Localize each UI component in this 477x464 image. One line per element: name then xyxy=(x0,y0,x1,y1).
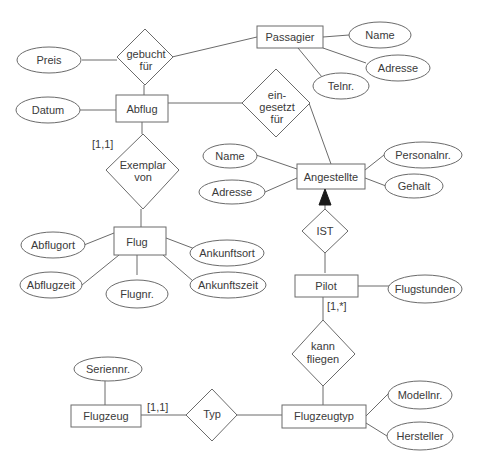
cardinality-abflug-exemplar: [1,1] xyxy=(92,138,113,150)
relationship-ist[interactable]: IST xyxy=(302,209,348,253)
attribute-ankunftszeit[interactable]: Ankunftszeit xyxy=(190,272,266,298)
cardinality-pilot-kann-fliegen: [1,*] xyxy=(327,300,347,312)
cardinality-flugzeug-typ: [1,1] xyxy=(147,401,168,413)
attribute-passagier-name-label: Name xyxy=(365,29,394,41)
attribute-datum-label: Datum xyxy=(32,104,64,116)
relationship-eingesetzt-fuer-line3: für xyxy=(271,113,284,125)
attribute-angestellte-name[interactable]: Name xyxy=(203,144,257,168)
attribute-gehalt-label: Gehalt xyxy=(398,180,430,192)
entity-flugzeugtyp[interactable]: Flugzeugtyp xyxy=(282,405,366,428)
entity-flug-label: Flug xyxy=(126,236,147,248)
attribute-passagier-adresse-label: Adresse xyxy=(378,62,418,74)
attribute-gehalt[interactable]: Gehalt xyxy=(385,174,443,198)
attribute-seriennr[interactable]: Seriennr. xyxy=(74,357,142,381)
attribute-modellnr-label: Modellnr. xyxy=(398,389,443,401)
attribute-ankunftsort-label: Ankunftsort xyxy=(199,247,255,259)
attribute-abflugort[interactable]: Abflugort xyxy=(21,232,85,258)
attribute-flugstunden[interactable]: Flugstunden xyxy=(388,275,462,303)
attribute-telnr-label: Telnr. xyxy=(328,80,354,92)
relationship-typ[interactable]: Typ xyxy=(186,389,237,441)
relationship-kann-fliegen[interactable]: kann fliegen xyxy=(292,320,355,386)
er-diagram-svg: Passagier Abflug Flug Angestellte Pilot … xyxy=(0,0,477,464)
relationship-exemplar-von-line2: von xyxy=(134,171,152,183)
relationship-eingesetzt-fuer-line1: ein- xyxy=(268,89,287,101)
entity-flug[interactable]: Flug xyxy=(114,227,166,255)
attribute-personalnr-label: Personalnr. xyxy=(395,149,451,161)
relationship-eingesetzt-fuer-line2: gesetzt xyxy=(259,101,294,113)
inheritance-arrow-icon xyxy=(319,189,331,205)
entity-abflug-label: Abflug xyxy=(126,103,157,115)
relationship-kann-fliegen-line2: fliegen xyxy=(307,353,339,365)
attribute-abflugzeit-label: Abflugzeit xyxy=(27,279,75,291)
relationship-exemplar-von[interactable]: Exemplar von xyxy=(106,134,179,209)
relationship-eingesetzt-fuer[interactable]: ein- gesetzt für xyxy=(242,69,310,137)
entity-pilot-label: Pilot xyxy=(315,280,336,292)
entity-flugzeug-label: Flugzeug xyxy=(83,410,128,422)
relationship-kann-fliegen-line1: kann xyxy=(311,340,335,352)
attribute-passagier-name[interactable]: Name xyxy=(349,22,411,48)
attribute-abflugort-label: Abflugort xyxy=(31,239,75,251)
attribute-angestellte-adresse-label: Adresse xyxy=(212,186,252,198)
attribute-flugstunden-label: Flugstunden xyxy=(395,283,456,295)
relationship-typ-label: Typ xyxy=(203,408,221,420)
attribute-ankunftszeit-label: Ankunftszeit xyxy=(198,279,258,291)
attribute-hersteller-label: Hersteller xyxy=(396,430,443,442)
entity-abflug[interactable]: Abflug xyxy=(116,95,168,122)
attribute-angestellte-name-label: Name xyxy=(215,150,244,162)
relationship-gebucht-fuer-line1: gebucht xyxy=(126,48,165,60)
entity-flugzeug[interactable]: Flugzeug xyxy=(71,405,141,427)
attribute-flugnr-label: Flugnr. xyxy=(120,288,154,300)
entity-angestellte[interactable]: Angestellte xyxy=(297,164,365,189)
attribute-datum[interactable]: Datum xyxy=(16,97,80,123)
entity-passagier[interactable]: Passagier xyxy=(257,26,323,48)
attribute-abflugzeit[interactable]: Abflugzeit xyxy=(20,272,82,298)
attribute-telnr[interactable]: Telnr. xyxy=(313,73,369,99)
entity-angestellte-label: Angestellte xyxy=(304,171,358,183)
er-diagram: Passagier Abflug Flug Angestellte Pilot … xyxy=(0,0,477,464)
relationship-gebucht-fuer[interactable]: gebucht für xyxy=(117,29,173,85)
entity-flugzeugtyp-label: Flugzeugtyp xyxy=(294,410,354,422)
relationship-exemplar-von-line1: Exemplar xyxy=(120,159,167,171)
entity-passagier-label: Passagier xyxy=(266,31,315,43)
attribute-personalnr[interactable]: Personalnr. xyxy=(384,142,462,168)
relationship-ist-label: IST xyxy=(316,225,333,237)
attribute-flugnr[interactable]: Flugnr. xyxy=(106,280,168,308)
attribute-hersteller[interactable]: Hersteller xyxy=(387,422,453,450)
attribute-seriennr-label: Seriennr. xyxy=(86,363,130,375)
attribute-preis[interactable]: Preis xyxy=(17,47,81,73)
attribute-modellnr[interactable]: Modellnr. xyxy=(388,381,452,409)
attribute-preis-label: Preis xyxy=(36,54,62,66)
attribute-ankunftsort[interactable]: Ankunftsort xyxy=(190,240,264,266)
entity-pilot[interactable]: Pilot xyxy=(295,275,358,297)
attribute-passagier-adresse[interactable]: Adresse xyxy=(366,55,430,81)
relationship-gebucht-fuer-line2: für xyxy=(140,60,153,72)
attribute-angestellte-adresse[interactable]: Adresse xyxy=(199,180,265,204)
